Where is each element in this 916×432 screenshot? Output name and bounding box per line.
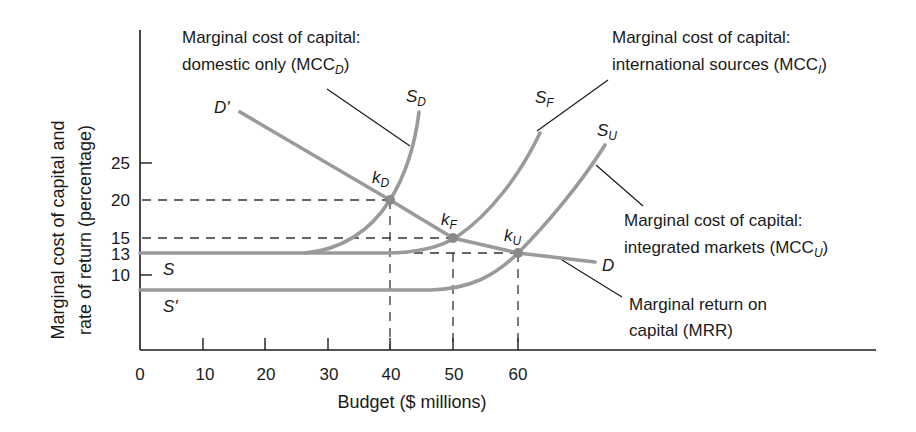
x-tick-labels: 0 10 20 30 40 50 60 [135, 365, 527, 384]
x-tick-20: 20 [257, 365, 276, 384]
x-tick-60: 60 [509, 365, 528, 384]
y-ticks: 25 20 15 13 10 [111, 154, 152, 285]
kU-point [513, 248, 523, 258]
cost-of-capital-chart: Marginal cost of capital and rate of ret… [0, 0, 916, 432]
x-tick-0: 0 [135, 365, 144, 384]
curves [140, 112, 605, 290]
svg-text:Marginal cost of capital:: Marginal cost of capital: [612, 28, 791, 47]
mcc-intl-curve [140, 133, 540, 253]
annotation-international: Marginal cost of capital: international … [612, 28, 827, 77]
y-axis-title: Marginal cost of capital and rate of ret… [48, 120, 95, 339]
kD-point [385, 195, 395, 205]
leader-lines [327, 80, 643, 297]
curve-label-S: S [163, 260, 175, 279]
x-axis-title: Budget ($ millions) [337, 392, 486, 412]
kD-label: kD [372, 168, 390, 190]
svg-text:international sources (MCCI): international sources (MCCI) [612, 55, 827, 77]
curve-label-D: D [602, 256, 614, 275]
x-ticks [203, 338, 518, 350]
kU-label: kU [504, 226, 522, 248]
x-tick-50: 50 [445, 365, 464, 384]
mrr-curve [240, 112, 595, 262]
y-tick-10: 10 [111, 266, 130, 285]
dashed-guides [142, 200, 518, 350]
y-tick-13: 13 [111, 245, 130, 264]
curve-label-SD: SD [406, 87, 426, 109]
x-tick-30: 30 [320, 365, 339, 384]
y-tick-25: 25 [111, 154, 130, 173]
y-axis-title-line1: Marginal cost of capital and [48, 120, 68, 339]
mcc-integrated-curve [140, 145, 605, 290]
svg-text:domestic only (MCCD): domestic only (MCCD) [182, 55, 349, 77]
y-tick-20: 20 [111, 191, 130, 210]
svg-text:integrated markets (MCCU): integrated markets (MCCU) [624, 238, 828, 260]
svg-text:Marginal return on: Marginal return on [629, 295, 767, 314]
kF-point [448, 233, 458, 243]
annotation-domestic: Marginal cost of capital: domestic only … [182, 28, 361, 77]
curve-label-SF: SF [535, 88, 554, 110]
svg-text:capital (MRR): capital (MRR) [629, 321, 733, 340]
curve-label-D-prime: D' [214, 98, 230, 117]
curve-label-S-prime: S' [163, 297, 178, 316]
curve-label-SU: SU [597, 121, 617, 143]
x-tick-10: 10 [196, 365, 215, 384]
x-tick-40: 40 [382, 365, 401, 384]
y-axis-title-line2: rate of return (percentage) [75, 125, 95, 335]
svg-text:Marginal cost of capital:: Marginal cost of capital: [624, 211, 803, 230]
annotation-mrr: Marginal return on capital (MRR) [629, 295, 767, 340]
svg-text:Marginal cost of capital:: Marginal cost of capital: [182, 28, 361, 47]
kF-label: kF [441, 210, 458, 232]
annotation-integrated: Marginal cost of capital: integrated mar… [624, 211, 828, 260]
